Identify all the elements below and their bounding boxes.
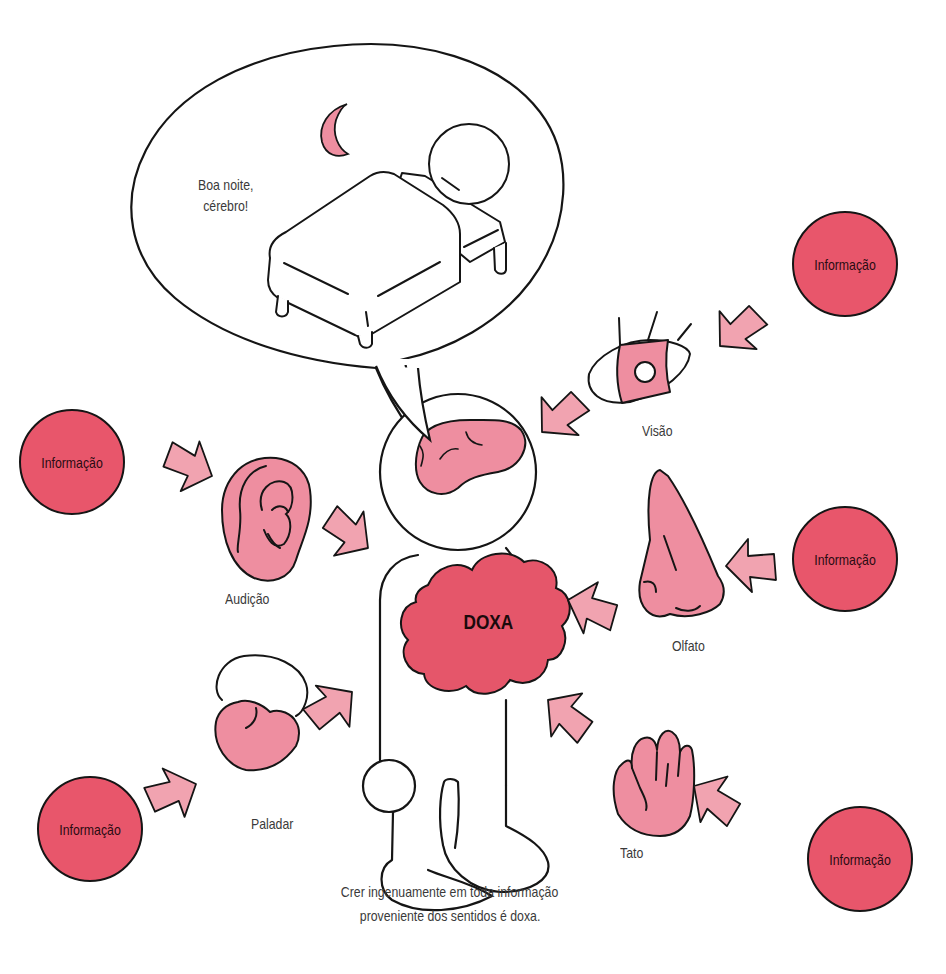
arrow-info-to-eye bbox=[703, 293, 775, 366]
sense-label-paladar: Paladar bbox=[251, 815, 293, 832]
doxa-label: DOXA bbox=[463, 610, 513, 634]
sense-label-visao: Visão bbox=[642, 422, 673, 439]
arrow-info-to-nose bbox=[726, 539, 776, 592]
eye-icon bbox=[589, 312, 691, 403]
info-label-visao: Informação bbox=[802, 254, 887, 274]
caption: Crer ingenuamente em toda informação pro… bbox=[280, 880, 620, 928]
sense-label-audicao: Audição bbox=[225, 590, 269, 607]
bubble-line-2: cérebro! bbox=[198, 195, 253, 216]
caption-line-1: Crer ingenuamente em toda informação bbox=[341, 880, 558, 904]
info-label-audicao: Informação bbox=[29, 452, 114, 472]
doxa-diagram bbox=[0, 0, 946, 974]
arrow-eye-to-head bbox=[525, 379, 597, 452]
info-label-tato: Informação bbox=[817, 849, 902, 869]
tongue-icon bbox=[215, 655, 307, 770]
arrow-tongue-to-body bbox=[296, 671, 367, 743]
sense-label-olfato: Olfato bbox=[672, 637, 705, 654]
arrow-hand-to-body bbox=[531, 679, 603, 752]
ear-icon bbox=[222, 458, 311, 581]
sense-label-tato: Tato bbox=[620, 844, 643, 861]
arrow-ear-to-body bbox=[312, 497, 384, 570]
info-label-olfato: Informação bbox=[802, 549, 887, 569]
nose-icon bbox=[639, 470, 723, 616]
arrow-info-to-tongue bbox=[140, 760, 205, 827]
arrow-info-to-ear bbox=[155, 431, 223, 500]
bubble-line-1: Boa noite, bbox=[198, 174, 253, 195]
info-label-paladar: Informação bbox=[47, 819, 132, 839]
bubble-text: Boa noite, cérebro! bbox=[198, 174, 253, 216]
hand-icon bbox=[614, 731, 695, 836]
caption-line-2: proveniente dos sentidos é doxa. bbox=[360, 904, 541, 928]
